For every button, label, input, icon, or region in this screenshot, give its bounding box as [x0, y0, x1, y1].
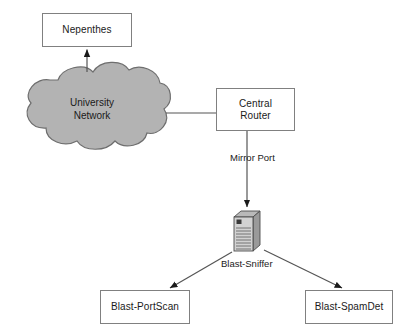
node-blast-portscan[interactable]: Blast-PortScan — [100, 290, 190, 324]
blast-spamdet-label: Blast-SpamDet — [315, 301, 384, 313]
node-nepenthes[interactable]: Nepenthes — [42, 13, 132, 47]
network-diagram: University Network Nepenthes Central Rou… — [0, 0, 399, 332]
node-blast-spamdet[interactable]: Blast-SpamDet — [305, 290, 393, 324]
nepenthes-label: Nepenthes — [62, 24, 111, 36]
blast-sniffer-label: Blast-Sniffer — [221, 258, 273, 269]
central-router-label: Central Router — [239, 98, 272, 122]
mirror-port-label: Mirror Port — [230, 152, 275, 163]
edge-sniffer-to-spamdet — [264, 250, 342, 288]
blast-portscan-label: Blast-PortScan — [111, 301, 179, 313]
university-network-label: University Network — [52, 96, 132, 122]
diagram-connectors — [0, 0, 399, 332]
node-central-router[interactable]: Central Router — [216, 88, 295, 131]
server-tower-icon — [231, 209, 263, 254]
